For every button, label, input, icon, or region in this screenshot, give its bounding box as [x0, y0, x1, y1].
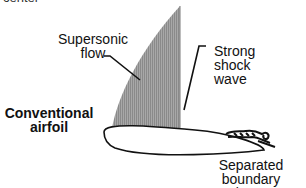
shock-leader-line	[184, 46, 206, 110]
cut-off-caption: center	[3, 0, 39, 4]
supersonic-label-line2: flow	[58, 46, 128, 60]
airfoil-label-line2: airfoil	[4, 120, 94, 134]
supersonic-label-line1: Supersonic	[58, 32, 128, 46]
airfoil-outline	[104, 126, 264, 155]
shock-label-line2: shock	[214, 58, 274, 72]
separated-boundary-layer-label: Separated boundary layer	[195, 158, 306, 188]
airfoil-diagram: center Supersonic flow Strong shock wave…	[0, 0, 306, 188]
shock-label-line1: Strong	[214, 44, 274, 58]
separated-label-line1: Separated boundary	[195, 158, 306, 186]
airfoil-label-line1: Conventional	[4, 106, 94, 120]
shock-wave-label: Strong shock wave	[214, 44, 274, 86]
separated-label-line2: layer	[195, 186, 306, 188]
shock-label-line3: wave	[214, 72, 274, 86]
supersonic-flow-label: Supersonic flow	[58, 32, 128, 60]
conventional-airfoil-label: Conventional airfoil	[4, 106, 94, 134]
supersonic-flow-region	[112, 6, 180, 128]
